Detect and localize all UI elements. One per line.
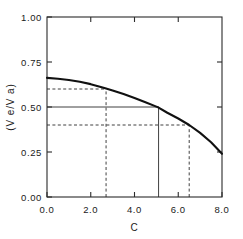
x-tick-label-4-0: 4.0 <box>127 204 142 215</box>
y-tick-label-0-00: 0.00 <box>21 192 42 203</box>
y-tick-label-0-25: 0.25 <box>21 147 42 158</box>
chart-figure: 0.00 0.25 0.50 0.75 1.00 0.0 2.0 4.0 6.0… <box>0 0 243 239</box>
x-tick-label-2-0: 2.0 <box>83 204 98 215</box>
chart-plot-svg: 0.00 0.25 0.50 0.75 1.00 0.0 2.0 4.0 6.0… <box>0 0 243 239</box>
y-tick-label-0-50: 0.50 <box>21 102 42 113</box>
y-tick-label-0-75: 0.75 <box>21 57 42 68</box>
x-axis-title: C <box>130 222 138 233</box>
y-tick-label-1-00: 1.00 <box>21 12 42 23</box>
y-axis-title: (V e/V a) <box>5 83 16 131</box>
x-tick-label-0-0: 0.0 <box>39 204 54 215</box>
x-tick-label-8-0: 8.0 <box>214 204 229 215</box>
x-tick-label-6-0: 6.0 <box>171 204 186 215</box>
figure-background <box>0 0 243 239</box>
